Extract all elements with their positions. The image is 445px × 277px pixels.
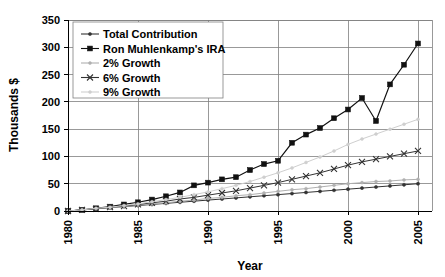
series-point [416,182,419,185]
series-point [318,126,323,131]
series-point [361,137,364,140]
series-point [277,171,280,174]
legend-label: 9% Growth [103,86,161,98]
series-point [262,162,267,167]
series-point [179,196,182,199]
series-point [332,189,335,192]
legend-marker [88,46,93,51]
series-point [318,190,321,193]
series-point [360,96,365,101]
x-tick-label: 1980 [62,220,74,244]
legend-label: 6% Growth [103,72,161,84]
x-tick-label: 1990 [202,220,214,244]
x-tick-label: 1985 [132,220,144,244]
y-tick-label: 50 [48,178,60,190]
series-point [234,175,239,180]
y-tick-label: 200 [42,96,60,108]
series-point [207,197,210,200]
series-point [123,204,126,207]
series-point [95,207,98,210]
series-point [417,178,420,181]
legend-marker [88,32,91,35]
series-point [207,190,210,193]
series-point [235,184,238,187]
series-point [388,82,393,87]
line-chart: 0501001502002503003501980198519901995200… [0,0,445,277]
series-line [68,151,418,211]
series-point [249,193,252,196]
y-tick-label: 300 [42,41,60,53]
series-point [165,198,168,201]
series-point [291,166,294,169]
y-tick-label: 0 [54,205,60,217]
series-point [263,176,266,179]
series-point [235,194,238,197]
series-4 [65,148,421,214]
series-5 [67,118,420,213]
chart-container: 0501001502002503003501980198519901995200… [0,0,445,277]
series-point [416,41,421,46]
series-point [389,179,392,182]
series-point [291,188,294,191]
series-point [402,183,405,186]
series-point [375,133,378,136]
series-point [263,191,266,194]
series-point [331,166,337,172]
y-tick-label: 250 [42,69,60,81]
x-tick-label: 1995 [272,220,284,244]
legend-label: Total Contribution [103,28,198,40]
series-point [333,149,336,152]
legend-label: 2% Growth [103,57,161,69]
series-point [332,116,337,121]
series-point [304,191,307,194]
series-point [319,155,322,158]
series-point [206,180,211,185]
series-point [375,180,378,183]
series-point [305,161,308,164]
series-point [192,183,197,188]
series-point [276,193,279,196]
series-point [374,185,377,188]
series-point [178,190,183,195]
y-tick-label: 150 [42,123,60,135]
series-point [374,119,379,124]
series-point [347,182,350,185]
series-point [388,184,391,187]
series-point [290,192,293,195]
y-tick-label: 100 [42,150,60,162]
chart-legend: Total ContributionRon Muhlenkamp's IRA2%… [73,22,225,98]
series-point [220,177,225,182]
series-point [346,107,351,112]
series-point [305,187,308,190]
series-point [248,168,253,173]
series-point [417,118,420,121]
series-point [347,143,350,146]
legend-label: Ron Muhlenkamp's IRA [103,43,225,55]
series-point [346,188,349,191]
series-point [276,158,281,163]
series-point [304,132,309,137]
x-axis-title: Year [237,259,263,273]
series-1 [66,182,419,212]
series-point [361,181,364,184]
series-point [319,185,322,188]
series-point [277,190,280,193]
series-point [221,187,224,190]
series-point [137,202,140,205]
series-point [402,62,407,67]
legend-marker [89,62,92,65]
x-tick-label: 2005 [412,220,424,244]
x-tick-label: 2000 [342,220,354,244]
y-axis-title: Thousands $ [7,78,21,152]
series-point [403,123,406,126]
series-point [249,180,252,183]
series-point [151,200,154,203]
legend-marker [89,91,92,94]
series-point [333,184,336,187]
series-point [193,193,196,196]
series-point [389,128,392,131]
series-point [290,140,295,145]
y-tick-label: 350 [42,14,60,26]
series-point [403,178,406,181]
series-point [109,206,112,209]
